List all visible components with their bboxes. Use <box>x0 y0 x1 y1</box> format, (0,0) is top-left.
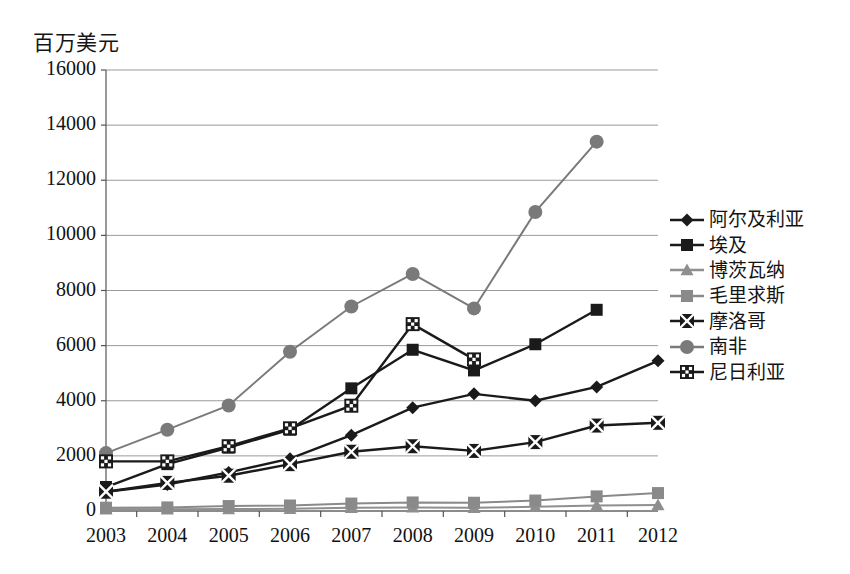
chart-legend: 阿尔及利亚埃及博茨瓦纳毛里求斯摩洛哥南非尼日利亚 <box>668 207 843 385</box>
legend-label: 南非 <box>709 337 747 356</box>
legend-item-2[interactable]: 博茨瓦纳 <box>668 258 843 283</box>
data-point-x-square <box>467 444 481 458</box>
x-tick-label: 2010 <box>505 524 565 547</box>
data-point-diamond <box>345 429 358 442</box>
legend-marker-icon <box>668 286 706 306</box>
data-point-hatched-square <box>467 352 481 366</box>
data-point-circle <box>160 423 174 437</box>
data-point-x-square <box>283 457 297 471</box>
x-tick-label: 2012 <box>628 524 688 547</box>
x-tick-label: 2006 <box>260 524 320 547</box>
data-point-square <box>591 304 603 316</box>
series-group <box>99 135 665 515</box>
legend-item-5[interactable]: 南非 <box>668 334 843 359</box>
data-point-square-gray <box>100 502 112 514</box>
legend-marker-icon <box>668 235 706 255</box>
y-tick-label: 14000 <box>14 112 96 135</box>
legend-item-3[interactable]: 毛里求斯 <box>668 283 843 308</box>
y-tick-label: 2000 <box>14 443 96 466</box>
data-point-square <box>345 382 357 394</box>
legend-label: 埃及 <box>709 236 747 255</box>
y-tick-label: 10000 <box>14 222 96 245</box>
y-tick-label: 4000 <box>14 388 96 411</box>
legend-marker-icon <box>668 311 706 331</box>
legend-item-6[interactable]: 尼日利亚 <box>668 359 843 384</box>
x-tick-label: 2007 <box>321 524 381 547</box>
data-point-x-square <box>680 314 694 328</box>
data-point-square-gray <box>681 290 693 302</box>
y-tick-label: 8000 <box>14 278 96 301</box>
legend-label: 博茨瓦纳 <box>709 261 785 280</box>
data-point-hatched-square <box>283 421 297 435</box>
data-point-hatched-square <box>99 454 113 468</box>
data-point-hatched-square <box>344 399 358 413</box>
series-line <box>106 361 658 492</box>
data-point-square-gray <box>591 490 603 502</box>
data-point-hatched-square <box>222 439 236 453</box>
data-point-square-gray <box>652 487 664 499</box>
data-point-x-square <box>651 416 665 430</box>
data-point-diamond <box>652 354 665 367</box>
data-point-hatched-square <box>160 454 174 468</box>
legend-item-1[interactable]: 埃及 <box>668 232 843 257</box>
series-6 <box>99 317 481 468</box>
legend-label: 摩洛哥 <box>709 312 766 331</box>
legend-marker-icon <box>668 260 706 280</box>
data-point-diamond <box>468 387 481 400</box>
data-point-x-square <box>160 476 174 490</box>
data-point-square-gray <box>345 498 357 510</box>
data-point-x-square <box>222 469 236 483</box>
x-tick-label: 2003 <box>76 524 136 547</box>
legend-marker-icon <box>668 337 706 357</box>
data-point-x-square <box>99 485 113 499</box>
data-point-circle <box>528 205 542 219</box>
x-tick-label: 2004 <box>137 524 197 547</box>
legend-marker-icon <box>668 362 706 382</box>
data-point-diamond <box>590 380 603 393</box>
legend-item-0[interactable]: 阿尔及利亚 <box>668 207 843 232</box>
data-point-square-gray <box>529 495 541 507</box>
data-point-square <box>529 338 541 350</box>
series-0 <box>100 354 665 498</box>
x-tick-label: 2011 <box>567 524 627 547</box>
legend-label: 尼日利亚 <box>709 363 785 382</box>
data-point-hatched-square <box>406 317 420 331</box>
data-point-diamond <box>529 394 542 407</box>
legend-marker-icon <box>668 210 706 230</box>
data-point-square-gray <box>468 497 480 509</box>
data-point-circle <box>283 345 297 359</box>
x-tick-label: 2008 <box>383 524 443 547</box>
y-tick-label: 12000 <box>14 167 96 190</box>
y-tick-label: 0 <box>14 498 96 521</box>
data-point-square-gray <box>223 500 235 512</box>
data-point-circle <box>406 267 420 281</box>
y-tick-label: 6000 <box>14 333 96 356</box>
data-point-circle <box>222 398 236 412</box>
y-tick-label: 16000 <box>14 57 96 80</box>
data-point-x-square <box>590 419 604 433</box>
data-point-square <box>681 239 693 251</box>
data-point-square-gray <box>407 496 419 508</box>
data-point-x-square <box>406 439 420 453</box>
chart-figure: 百万美元 02000400060008000100001200014000160… <box>0 0 850 574</box>
data-point-hatched-square <box>680 365 694 379</box>
data-point-diamond <box>681 213 694 226</box>
series-1 <box>100 304 603 493</box>
data-point-circle <box>467 301 481 315</box>
legend-label: 毛里求斯 <box>709 286 785 305</box>
data-point-square <box>407 344 419 356</box>
x-tick-label: 2009 <box>444 524 504 547</box>
x-tick-label: 2005 <box>199 524 259 547</box>
data-point-circle <box>344 299 358 313</box>
data-point-x-square <box>344 445 358 459</box>
data-point-square-gray <box>161 501 173 513</box>
data-point-diamond <box>406 401 419 414</box>
legend-label: 阿尔及利亚 <box>709 210 804 229</box>
legend-item-4[interactable]: 摩洛哥 <box>668 309 843 334</box>
data-point-circle <box>680 340 694 354</box>
data-point-square-gray <box>284 499 296 511</box>
data-point-circle <box>590 135 604 149</box>
data-point-x-square <box>528 435 542 449</box>
